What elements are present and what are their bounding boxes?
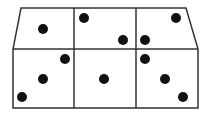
grid-lines xyxy=(13,8,198,108)
dot-bottom-left xyxy=(38,74,48,84)
dot-top-middle xyxy=(79,13,89,23)
dot-grid-diagram xyxy=(0,0,209,116)
dot-bottom-right xyxy=(140,54,150,64)
dot-top-middle xyxy=(118,35,128,45)
dot-top-right xyxy=(171,13,181,23)
dot-bottom-right xyxy=(160,74,170,84)
dots-layer xyxy=(17,13,188,102)
dot-bottom-left xyxy=(60,54,70,64)
dot-top-right xyxy=(140,35,150,45)
dot-bottom-left xyxy=(17,92,27,102)
dot-bottom-middle xyxy=(99,74,109,84)
dot-bottom-right xyxy=(178,92,188,102)
outline-shape xyxy=(13,8,198,108)
dot-top-left xyxy=(38,24,48,34)
